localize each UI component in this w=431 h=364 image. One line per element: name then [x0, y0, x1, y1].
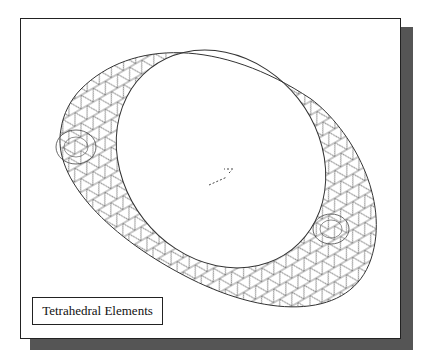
- figure-label: Tetrahedral Elements: [32, 297, 163, 325]
- figure-frame: Tetrahedral Elements: [20, 18, 401, 339]
- tetrahedral-mesh-illustration: [21, 19, 402, 340]
